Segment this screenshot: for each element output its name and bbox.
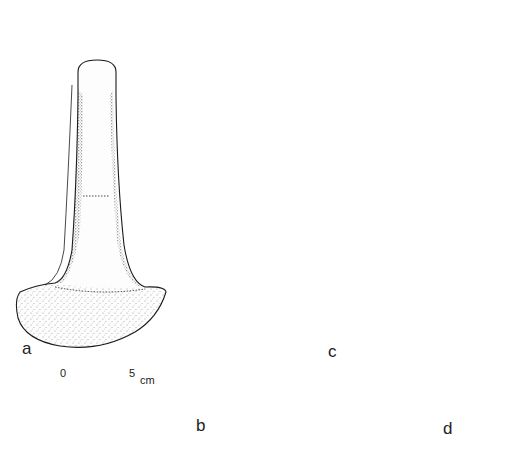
scale-start-label: 0 — [60, 368, 66, 379]
axe-drawing — [16, 60, 166, 347]
label-c: c — [328, 343, 337, 360]
artifact-drawings — [0, 0, 514, 456]
artifact-figure: a b c d 0 5 cm — [0, 0, 514, 456]
label-b: b — [196, 417, 205, 434]
scale-end-label: 5 — [129, 368, 135, 379]
scale-unit-label: cm — [140, 375, 155, 386]
label-d: d — [443, 420, 452, 437]
label-a: a — [22, 340, 31, 357]
